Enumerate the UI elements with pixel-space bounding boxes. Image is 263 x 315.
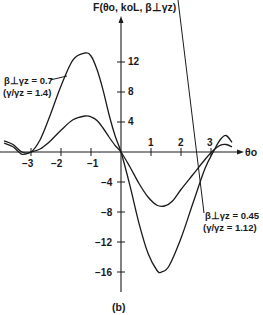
x-tick-label: 3: [207, 137, 213, 148]
series-1-label: β⊥γz = 0.45: [205, 210, 260, 221]
annotation-series-1: β⊥γz = 0.45 (γ/γz = 1.12): [178, 0, 260, 233]
y-axis-title: F(θo, koL, β⊥γz): [93, 1, 176, 13]
x-tick-label: −2: [51, 158, 63, 169]
leader-line: [178, 0, 204, 213]
chart: F(θo, koL, β⊥γz) θo −3 −2 −1 1 2 3 12 8 …: [0, 0, 263, 315]
x-tick-label: −1: [87, 158, 99, 169]
y-tick-label: −16: [95, 267, 112, 278]
series-1-sublabel: (γ/γz = 1.12): [203, 222, 257, 233]
y-tick-label: 8: [128, 86, 134, 97]
y-tick-label: −4: [101, 177, 113, 188]
y-tick-label: 12: [128, 56, 140, 67]
x-tick-label: 2: [178, 137, 184, 148]
x-axis-arrow-icon: [237, 150, 244, 155]
figure-caption: (b): [112, 301, 125, 313]
y-axis-arrow-icon: [119, 16, 124, 23]
x-axis-title: θo: [245, 146, 257, 158]
x-tick-label: 1: [148, 137, 154, 148]
series-0-label: β⊥γz = 0.7: [4, 75, 53, 86]
y-tick-labels: 12 8 4 −4 −8 −12 −16: [95, 56, 140, 278]
y-tick-label: −8: [101, 207, 113, 218]
x-tick-label: −3: [22, 158, 34, 169]
y-tick-label: −12: [95, 237, 112, 248]
series-0-sublabel: (γ/γz = 1.4): [3, 87, 51, 98]
y-tick-label: 4: [128, 116, 134, 127]
